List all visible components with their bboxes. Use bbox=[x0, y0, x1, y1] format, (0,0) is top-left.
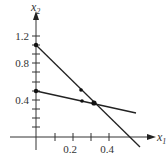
point-line2-mid bbox=[80, 99, 84, 103]
point-line2-intercept bbox=[34, 89, 38, 93]
x-tick-label-0.4: 0.4 bbox=[100, 143, 114, 155]
intersection-point bbox=[91, 100, 96, 105]
y-tick-label-1.2: 1.2 bbox=[15, 30, 29, 42]
constraint-line-1 bbox=[36, 45, 140, 147]
y-tick-label-0.4: 0.4 bbox=[15, 94, 29, 106]
x-axis-label: x1 bbox=[156, 130, 166, 146]
x-tick-label-0.2: 0.2 bbox=[63, 143, 77, 155]
point-line1-intercept bbox=[34, 43, 38, 47]
point-line1-mid bbox=[79, 88, 83, 92]
chart-canvas: 0.4 0.8 1.2 0.2 0.4 x2 x1 bbox=[0, 0, 168, 163]
y-tick-label-0.8: 0.8 bbox=[15, 57, 29, 69]
y-axis-label: x2 bbox=[30, 0, 40, 16]
x-axis-arrow-icon bbox=[147, 134, 156, 140]
